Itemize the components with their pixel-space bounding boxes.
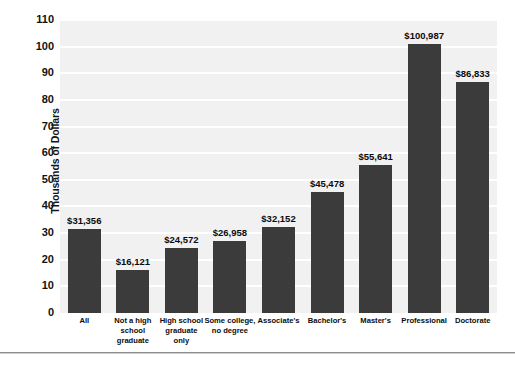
y-tick-label: 10 [8,280,54,291]
y-tick-label: 20 [8,254,54,265]
bar-value-label: $45,478 [285,178,370,189]
y-tick-label: 50 [8,174,54,185]
x-tick-label-line: Doctorate [442,316,504,326]
bar-value-label: $31,356 [42,215,127,226]
bar-group: $16,121 [116,20,149,313]
y-tick-label: 70 [8,121,54,132]
bar [165,248,198,313]
bar-group: $100,987 [408,20,441,313]
bar [359,165,392,313]
x-tick-label: Doctorate [442,316,504,326]
bar-value-label: $26,958 [187,227,272,238]
bar-value-label: $86,833 [430,68,515,79]
bar-group: $26,958 [213,20,246,313]
y-tick-label: 60 [8,147,54,158]
x-tick-label-line: no degree [199,326,261,336]
bar-value-label: $55,641 [333,151,418,162]
bar [311,192,344,313]
x-axis-tick-labels: AllNot a highschoolgraduateHigh schoolgr… [60,316,497,362]
bar-group: $45,478 [311,20,344,313]
bar-value-label: $32,152 [236,213,321,224]
bar [213,241,246,313]
x-tick-label-line: only [150,336,212,346]
y-tick-label: 100 [8,41,54,52]
y-tick-label: 0 [8,307,54,318]
y-tick-label: 90 [8,67,54,78]
bar-group: $86,833 [456,20,489,313]
bar-group: $31,356 [68,20,101,313]
bar [408,44,441,313]
bar-group: $24,572 [165,20,198,313]
bar [68,229,101,313]
y-tick-label: 80 [8,94,54,105]
bar [262,227,295,313]
bar [456,82,489,313]
footer-rule-shadow [0,353,515,354]
chart-figure: Thousands of Dollars 1101009080706050403… [0,0,515,365]
plot-area: $31,356$16,121$24,572$26,958$32,152$45,4… [60,20,497,313]
bar-value-label: $16,121 [90,256,175,267]
y-tick-label: 110 [8,14,54,25]
bar [116,270,149,313]
bar-group: $32,152 [262,20,295,313]
y-tick-label: 30 [8,227,54,238]
bar-group: $55,641 [359,20,392,313]
y-tick-label: 40 [8,200,54,211]
bar-value-label: $100,987 [382,30,467,41]
